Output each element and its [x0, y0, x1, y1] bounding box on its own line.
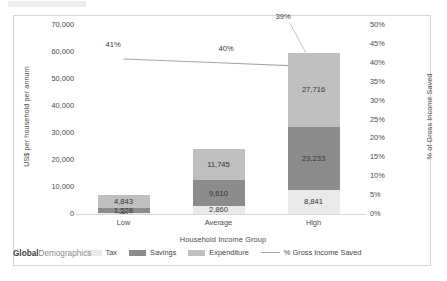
- y-axis-right-tick: 35%: [370, 78, 410, 85]
- scan-artifact: [8, 1, 86, 7]
- legend-label: Expenditure: [209, 248, 248, 257]
- bar-group[interactable]: 5471,5284,843: [98, 25, 150, 214]
- bar-segment-label: 23,233: [302, 155, 325, 163]
- y-axis-left-tick: 60,000: [30, 48, 74, 55]
- y-axis-right-tick: 20%: [370, 134, 410, 141]
- y-axis-right-tick: 0%: [370, 210, 410, 217]
- plot-area: 5471,5284,8432,8609,61011,7458,84123,233…: [76, 25, 361, 214]
- y-axis-left-tick: 20,000: [30, 156, 74, 163]
- bar-segment[interactable]: 27,716: [288, 53, 340, 128]
- bar-segment-label: 8,841: [304, 198, 323, 206]
- y-axis-right-tick: 25%: [370, 116, 410, 123]
- legend-color-swatch: [129, 250, 146, 256]
- bar-group[interactable]: 2,8609,61011,745: [193, 25, 245, 214]
- bar-segment-label: 27,716: [302, 86, 325, 94]
- y-axis-left: 010,00020,00030,00040,00050,00060,00070,…: [26, 16, 74, 267]
- branding-primary: Global: [13, 249, 38, 258]
- y-axis-left-tick: 70,000: [30, 21, 74, 28]
- x-axis-title: Household Income Group: [14, 235, 432, 244]
- legend-label: Savings: [150, 248, 176, 257]
- chart-container: 010,00020,00030,00040,00050,00060,00070,…: [13, 15, 431, 266]
- y-axis-left-title: US$ per household per annum: [22, 42, 31, 192]
- bar-segment[interactable]: 11,745: [193, 149, 245, 181]
- y-axis-left-tick: 10,000: [30, 183, 74, 190]
- bar-segment-label: 2,860: [209, 206, 228, 214]
- y-axis-right-tick: 15%: [370, 153, 410, 160]
- y-axis-right-tick: 30%: [370, 97, 410, 104]
- percent-line-label: 39%: [276, 13, 291, 21]
- x-axis-category-label: Low: [84, 218, 164, 227]
- bar-segment-label: 4,843: [114, 198, 133, 206]
- legend-item[interactable]: Savings: [129, 248, 176, 257]
- y-axis-right-title: % of Gross Income Saved: [425, 42, 434, 192]
- bar-segment[interactable]: 2,860: [193, 206, 245, 214]
- legend-label: Tax: [106, 248, 118, 257]
- y-axis-right-tick: 5%: [370, 191, 410, 198]
- y-axis-right: 0%5%10%15%20%25%30%35%40%45%50%: [370, 16, 414, 267]
- x-axis-category-label: High: [274, 218, 354, 227]
- x-axis-category-label: Average: [179, 218, 259, 227]
- bar-segment[interactable]: 4,843: [98, 195, 150, 208]
- bar-segment-label: 9,610: [209, 190, 228, 198]
- y-axis-left-tick: 40,000: [30, 102, 74, 109]
- y-axis-left-tick: 30,000: [30, 129, 74, 136]
- y-axis-right-tick: 10%: [370, 172, 410, 179]
- legend-color-swatch: [188, 250, 205, 256]
- branding-logo: GlobalDemographics: [13, 249, 91, 258]
- y-axis-right-tick: 40%: [370, 59, 410, 66]
- legend-item[interactable]: Expenditure: [188, 248, 248, 257]
- bar-group[interactable]: 8,84123,23327,716: [288, 25, 340, 214]
- bar-segment-label: 11,745: [207, 161, 230, 169]
- bar-segment[interactable]: 9,610: [193, 180, 245, 206]
- y-axis-left-tick: 50,000: [30, 75, 74, 82]
- y-axis-right-tick: 50%: [370, 21, 410, 28]
- branding-secondary: Demographics: [38, 249, 91, 258]
- x-axis-line: [76, 214, 366, 215]
- legend-item[interactable]: % Gross Income Saved: [261, 248, 362, 257]
- bar-segment[interactable]: 23,233: [288, 127, 340, 190]
- percent-line-label: 40%: [219, 45, 234, 53]
- y-axis-right-tick: 45%: [370, 40, 410, 47]
- percent-line-label: 41%: [106, 41, 121, 49]
- legend-line-marker: [261, 252, 280, 253]
- y-axis-left-tick: 0: [30, 210, 74, 217]
- legend-label: % Gross Income Saved: [284, 248, 362, 257]
- bar-segment[interactable]: 8,841: [288, 190, 340, 214]
- bar-segment[interactable]: 1,528: [98, 208, 150, 212]
